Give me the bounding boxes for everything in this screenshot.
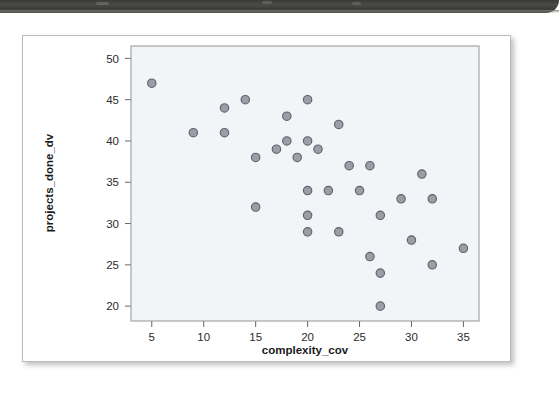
data-point bbox=[407, 236, 415, 244]
x-axis-title: complexity_cov bbox=[262, 344, 349, 356]
data-point bbox=[376, 211, 384, 219]
scanned-page-edge-band bbox=[0, 0, 559, 13]
scatter-plot-svg: 20253035404550 5101520253035 complexity_… bbox=[23, 36, 512, 363]
x-tick-label: 5 bbox=[149, 331, 155, 343]
plot-panel-background bbox=[131, 46, 479, 321]
data-point bbox=[272, 145, 280, 153]
data-point bbox=[428, 261, 436, 269]
data-point bbox=[376, 269, 384, 277]
data-point bbox=[366, 252, 374, 260]
x-tick-label: 15 bbox=[249, 331, 262, 343]
data-point bbox=[303, 211, 311, 219]
y-axis-ticks: 20253035404550 bbox=[106, 53, 131, 313]
y-tick-label: 45 bbox=[106, 94, 119, 106]
data-point bbox=[293, 153, 301, 161]
data-point bbox=[303, 95, 311, 103]
x-tick-label: 25 bbox=[353, 331, 366, 343]
data-point bbox=[324, 186, 332, 194]
data-point bbox=[376, 302, 384, 310]
figure-card: 20253035404550 5101520253035 complexity_… bbox=[22, 35, 511, 362]
data-point bbox=[220, 104, 228, 112]
y-tick-label: 25 bbox=[106, 259, 119, 271]
scatter-plot: 20253035404550 5101520253035 complexity_… bbox=[23, 36, 512, 363]
y-tick-label: 35 bbox=[106, 176, 119, 188]
data-point bbox=[459, 244, 467, 252]
scan-artifact-speck bbox=[262, 1, 272, 4]
data-point bbox=[418, 170, 426, 178]
data-point bbox=[366, 162, 374, 170]
data-point bbox=[251, 153, 259, 161]
x-tick-label: 30 bbox=[405, 331, 418, 343]
data-point bbox=[335, 120, 343, 128]
data-point bbox=[428, 195, 436, 203]
y-tick-label: 40 bbox=[106, 135, 119, 147]
data-point bbox=[241, 95, 249, 103]
data-point bbox=[189, 129, 197, 137]
data-point bbox=[345, 162, 353, 170]
y-axis-title: projects_done_dv bbox=[43, 133, 55, 232]
data-point bbox=[303, 228, 311, 236]
data-point bbox=[355, 186, 363, 194]
data-point bbox=[283, 137, 291, 145]
y-tick-label: 50 bbox=[106, 53, 119, 65]
data-point bbox=[303, 137, 311, 145]
scan-artifact-speck bbox=[96, 2, 109, 5]
x-axis-ticks: 5101520253035 bbox=[149, 321, 470, 343]
data-point bbox=[283, 112, 291, 120]
data-point bbox=[148, 79, 156, 87]
x-tick-label: 20 bbox=[301, 331, 314, 343]
data-point bbox=[314, 145, 322, 153]
data-point bbox=[397, 195, 405, 203]
y-tick-label: 20 bbox=[106, 300, 119, 312]
x-tick-label: 35 bbox=[457, 331, 470, 343]
data-point bbox=[335, 228, 343, 236]
data-point bbox=[220, 129, 228, 137]
scan-artifact-speck bbox=[352, 2, 361, 5]
data-point bbox=[251, 203, 259, 211]
data-point bbox=[303, 186, 311, 194]
y-tick-label: 30 bbox=[106, 218, 119, 230]
x-tick-label: 10 bbox=[197, 331, 210, 343]
